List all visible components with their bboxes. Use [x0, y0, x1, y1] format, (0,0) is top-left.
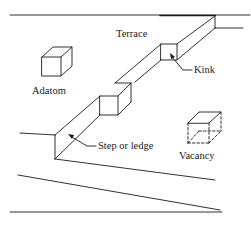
kink-arrow-line	[172, 57, 192, 70]
kink-label: Kink	[194, 64, 216, 75]
kink-arrow-head	[170, 53, 175, 59]
terrace-label: Terrace	[116, 28, 148, 39]
lower-left-terrace-edge	[20, 133, 55, 135]
step-label: Step or ledge	[98, 140, 154, 151]
vacancy-label: Vacancy	[179, 150, 215, 161]
surface-defects-diagram: Terrace Kink Adatom Step or ledge Vacanc…	[0, 0, 251, 225]
step-corner-box	[100, 96, 118, 115]
step-top-edge-upper	[177, 16, 215, 44]
adatom-cube	[42, 47, 72, 76]
step-bottom-edge-upper	[177, 28, 215, 60]
step-bottom-edge-lower	[55, 115, 100, 159]
step-arrow-head	[68, 134, 74, 139]
adatom-side-face	[61, 47, 72, 76]
step-jog-diag	[118, 83, 131, 96]
adatom-label: Adatom	[32, 85, 66, 96]
step-top-edge-middle	[115, 44, 161, 83]
surface-outline	[10, 15, 250, 212]
vacancy-edge-bottom-left	[188, 131, 199, 143]
vacancy-cube	[188, 112, 221, 143]
adatom-front-face	[42, 57, 61, 76]
lower-slope-line	[18, 175, 220, 210]
annotation-arrows	[68, 53, 192, 146]
step-corner-depth	[118, 102, 131, 115]
vacancy-top-opening	[188, 112, 221, 123]
adatom-top-face	[42, 47, 72, 57]
vacancy-edge-bottom-side	[209, 131, 221, 143]
lower-terrace-edge	[55, 159, 215, 180]
step-top-edge-lower	[55, 96, 100, 135]
kink-notch	[161, 44, 177, 60]
